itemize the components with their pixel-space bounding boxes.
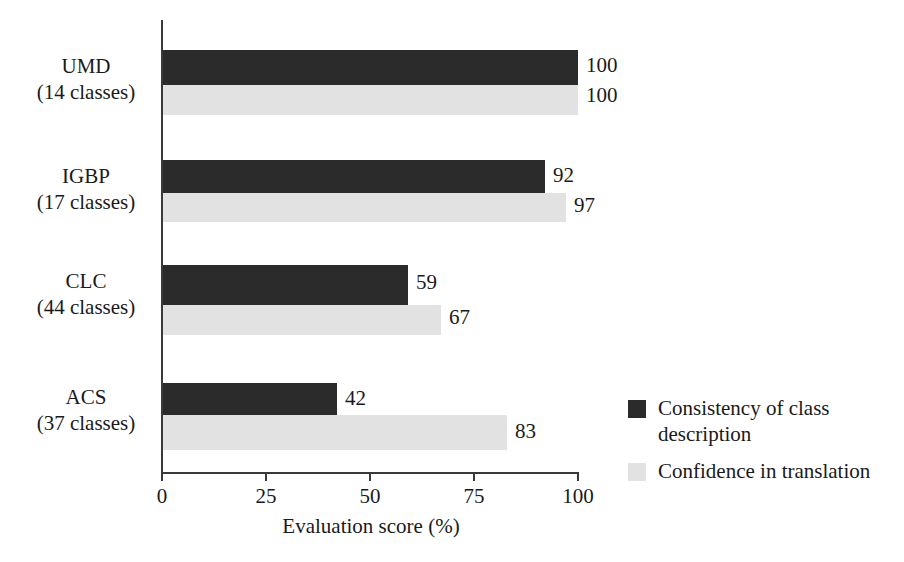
- legend-item-consistency: Consistency of class description: [628, 396, 898, 447]
- x-tick-100: [577, 472, 579, 481]
- bar-value-umd-consistency: 100: [586, 53, 618, 78]
- x-tick-75: [473, 472, 475, 481]
- legend-label-consistency: Consistency of class description: [658, 396, 829, 447]
- x-tick-0: [161, 472, 163, 481]
- category-label-umd: UMD (14 classes): [20, 54, 152, 105]
- legend-label-line2: description: [658, 422, 751, 446]
- legend-label-confidence: Confidence in translation: [658, 459, 870, 485]
- bar-value-igbp-consistency: 92: [553, 163, 574, 188]
- bar-umd-consistency: [162, 50, 578, 85]
- category-name: ACS: [20, 385, 152, 411]
- category-sublabel: (44 classes): [20, 295, 152, 321]
- bar-value-umd-confidence: 100: [586, 83, 618, 108]
- legend: Consistency of class description Confide…: [628, 396, 898, 497]
- category-sublabel: (17 classes): [20, 190, 152, 216]
- bar-value-clc-confidence: 67: [449, 305, 470, 330]
- category-name: CLC: [20, 269, 152, 295]
- legend-label-line1: Confidence in translation: [658, 459, 870, 483]
- category-sublabel: (14 classes): [20, 80, 152, 106]
- x-tick-label-75: 75: [464, 484, 485, 509]
- category-label-clc: CLC (44 classes): [20, 269, 152, 320]
- category-sublabel: (37 classes): [20, 411, 152, 437]
- bar-value-acs-consistency: 42: [345, 386, 366, 411]
- bar-igbp-consistency: [162, 160, 545, 193]
- bar-chart: UMD (14 classes) IGBP (17 classes) CLC (…: [0, 0, 904, 562]
- x-tick-25: [265, 472, 267, 481]
- bar-acs-confidence: [162, 415, 507, 450]
- x-tick-label-100: 100: [562, 484, 594, 509]
- y-axis-line: [161, 20, 163, 474]
- bar-value-acs-confidence: 83: [515, 419, 536, 444]
- plot-area: 100 100 92 97 59 67 42 83: [162, 20, 578, 473]
- bar-clc-consistency: [162, 265, 408, 305]
- bar-value-igbp-confidence: 97: [574, 193, 595, 218]
- x-tick-50: [369, 472, 371, 481]
- category-name: UMD: [20, 54, 152, 80]
- legend-item-confidence: Confidence in translation: [628, 459, 898, 485]
- category-label-igbp: IGBP (17 classes): [20, 164, 152, 215]
- category-label-acs: ACS (37 classes): [20, 385, 152, 436]
- x-axis-title: Evaluation score (%): [162, 514, 580, 539]
- bar-value-clc-consistency: 59: [416, 270, 437, 295]
- legend-swatch-dark-icon: [628, 400, 646, 418]
- x-tick-label-50: 50: [360, 484, 381, 509]
- x-tick-label-0: 0: [157, 484, 168, 509]
- legend-label-line1: Consistency of class: [658, 396, 829, 420]
- legend-swatch-light-icon: [628, 463, 646, 481]
- bar-igbp-confidence: [162, 193, 566, 222]
- bar-umd-confidence: [162, 85, 578, 115]
- bar-acs-consistency: [162, 383, 337, 415]
- category-name: IGBP: [20, 164, 152, 190]
- bar-clc-confidence: [162, 305, 441, 335]
- x-tick-label-25: 25: [256, 484, 277, 509]
